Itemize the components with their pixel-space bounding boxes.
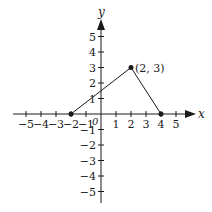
x-tick-label: 5 — [173, 118, 180, 131]
y-tick-label: 2 — [89, 77, 96, 90]
x-tick-label: 2 — [128, 118, 135, 131]
x-tick-label: 1 — [113, 118, 120, 131]
y-axis-label: y — [97, 5, 105, 19]
x-tick-label: −5 — [18, 118, 34, 131]
y-tick-label: −1 — [80, 124, 96, 137]
point-label: (2, 3) — [135, 62, 165, 75]
data-point — [129, 65, 134, 70]
data-point — [159, 112, 164, 117]
x-axis-label: x — [198, 107, 205, 121]
y-tick-label: −4 — [80, 170, 96, 183]
x-tick-label: 4 — [158, 118, 165, 131]
y-axis — [97, 19, 105, 203]
y-tick-label: 4 — [89, 46, 96, 59]
y-tick-label: −2 — [80, 139, 96, 152]
y-axis-arrow-icon — [97, 19, 105, 30]
y-tick-label: 5 — [89, 31, 96, 44]
y-tick-label: 3 — [89, 62, 96, 75]
data-point — [69, 112, 74, 117]
y-tick-label: −5 — [80, 186, 96, 199]
x-tick-label: −2 — [63, 118, 79, 131]
x-axis — [13, 110, 196, 118]
y-tick-label: −3 — [80, 155, 96, 168]
coordinate-plane: x y 0 −5−4−3−2−112345 54321−1−2−3−4−5 (2… — [0, 0, 212, 212]
x-tick-label: −4 — [33, 118, 49, 131]
x-tick-label: −3 — [48, 118, 64, 131]
x-tick-label: 3 — [143, 118, 150, 131]
x-axis-arrow-icon — [185, 110, 196, 118]
